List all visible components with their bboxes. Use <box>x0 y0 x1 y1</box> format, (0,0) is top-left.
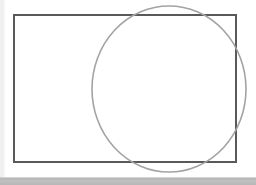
rectangle-shape[interactable] <box>14 15 236 162</box>
app-window <box>0 0 256 185</box>
bottom-status-bar-fill <box>0 180 256 185</box>
bottom-status-bar <box>0 177 256 185</box>
drawing-canvas[interactable] <box>0 0 256 177</box>
circle-shape[interactable] <box>92 6 246 172</box>
shapes-layer <box>0 0 256 177</box>
